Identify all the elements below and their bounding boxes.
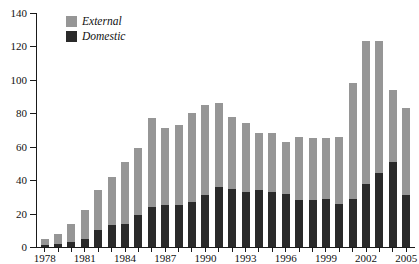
stacked-bar[interactable] xyxy=(54,234,62,247)
bar-column[interactable] xyxy=(306,13,319,247)
bar-column[interactable] xyxy=(373,13,386,247)
bar-segment-external[interactable] xyxy=(134,148,142,215)
bar-segment-domestic[interactable] xyxy=(335,204,343,247)
bar-segment-external[interactable] xyxy=(161,128,169,205)
bar-column[interactable]: 1993 xyxy=(239,13,252,247)
stacked-bar[interactable] xyxy=(268,133,276,247)
bar-column[interactable]: 2002 xyxy=(359,13,372,247)
stacked-bar[interactable] xyxy=(375,41,383,247)
stacked-bar[interactable] xyxy=(41,239,49,247)
bar-segment-domestic[interactable] xyxy=(268,192,276,247)
bar-segment-external[interactable] xyxy=(242,123,250,192)
bar-segment-domestic[interactable] xyxy=(121,224,129,247)
bar-segment-domestic[interactable] xyxy=(322,199,330,247)
stacked-bar[interactable] xyxy=(134,148,142,247)
bar-column[interactable]: 1981 xyxy=(78,13,91,247)
bar-column[interactable] xyxy=(252,13,265,247)
bar-segment-domestic[interactable] xyxy=(295,200,303,247)
bar-column[interactable]: 1987 xyxy=(159,13,172,247)
bar-column[interactable] xyxy=(225,13,238,247)
bar-segment-external[interactable] xyxy=(402,108,410,195)
bar-segment-domestic[interactable] xyxy=(389,162,397,247)
bar-segment-external[interactable] xyxy=(362,41,370,183)
bar-segment-external[interactable] xyxy=(41,239,49,246)
bar-segment-external[interactable] xyxy=(309,138,317,200)
bar-segment-domestic[interactable] xyxy=(215,187,223,247)
stacked-bar[interactable] xyxy=(335,137,343,247)
bar-column[interactable] xyxy=(65,13,78,247)
bar-column[interactable] xyxy=(105,13,118,247)
stacked-bar[interactable] xyxy=(309,138,317,247)
stacked-bar[interactable] xyxy=(228,117,236,247)
bar-segment-domestic[interactable] xyxy=(188,202,196,247)
bar-column[interactable] xyxy=(386,13,399,247)
bar-segment-domestic[interactable] xyxy=(161,205,169,247)
stacked-bar[interactable] xyxy=(67,224,75,247)
bar-segment-domestic[interactable] xyxy=(402,195,410,247)
stacked-bar[interactable] xyxy=(322,138,330,247)
bar-segment-domestic[interactable] xyxy=(309,200,317,247)
stacked-bar[interactable] xyxy=(94,190,102,247)
bar-segment-external[interactable] xyxy=(268,133,276,192)
bar-segment-external[interactable] xyxy=(148,118,156,207)
bar-segment-external[interactable] xyxy=(54,234,62,244)
bar-segment-external[interactable] xyxy=(349,83,357,198)
bar-column[interactable] xyxy=(185,13,198,247)
bar-segment-external[interactable] xyxy=(375,41,383,173)
bar-segment-external[interactable] xyxy=(322,138,330,198)
stacked-bar[interactable] xyxy=(389,90,397,247)
stacked-bar[interactable] xyxy=(148,118,156,247)
bar-column[interactable]: 2005 xyxy=(400,13,413,247)
bar-segment-domestic[interactable] xyxy=(362,184,370,248)
stacked-bar[interactable] xyxy=(242,123,250,247)
bar-column[interactable] xyxy=(333,13,346,247)
stacked-bar[interactable] xyxy=(282,142,290,247)
stacked-bar[interactable] xyxy=(161,128,169,247)
stacked-bar[interactable] xyxy=(255,133,263,247)
bar-segment-external[interactable] xyxy=(335,137,343,204)
bar-segment-domestic[interactable] xyxy=(282,194,290,247)
bar-column[interactable] xyxy=(266,13,279,247)
stacked-bar[interactable] xyxy=(108,177,116,247)
bar-column[interactable]: 1999 xyxy=(319,13,332,247)
bar-column[interactable] xyxy=(132,13,145,247)
stacked-bar[interactable] xyxy=(349,83,357,247)
stacked-bar[interactable] xyxy=(188,113,196,247)
bar-segment-external[interactable] xyxy=(175,125,183,205)
stacked-bar[interactable] xyxy=(81,210,89,247)
bar-segment-external[interactable] xyxy=(255,133,263,190)
bar-segment-external[interactable] xyxy=(228,117,236,189)
legend-item[interactable]: Domestic xyxy=(66,31,125,43)
bar-segment-external[interactable] xyxy=(295,137,303,201)
bar-column[interactable] xyxy=(346,13,359,247)
bar-segment-external[interactable] xyxy=(108,177,116,225)
bar-segment-domestic[interactable] xyxy=(134,215,142,247)
stacked-bar[interactable] xyxy=(402,108,410,247)
bar-segment-domestic[interactable] xyxy=(201,195,209,247)
bar-segment-external[interactable] xyxy=(201,105,209,195)
bar-column[interactable] xyxy=(212,13,225,247)
bar-segment-external[interactable] xyxy=(215,103,223,187)
bar-segment-domestic[interactable] xyxy=(108,225,116,247)
stacked-bar[interactable] xyxy=(215,103,223,247)
bar-column[interactable]: 1984 xyxy=(118,13,131,247)
stacked-bar[interactable] xyxy=(201,105,209,247)
bar-column[interactable] xyxy=(145,13,158,247)
bar-segment-external[interactable] xyxy=(94,190,102,230)
bar-segment-external[interactable] xyxy=(121,162,129,224)
bar-segment-domestic[interactable] xyxy=(81,239,89,247)
bar-segment-external[interactable] xyxy=(67,224,75,242)
bar-segment-domestic[interactable] xyxy=(148,207,156,247)
stacked-bar[interactable] xyxy=(362,41,370,247)
bar-column[interactable] xyxy=(172,13,185,247)
bar-segment-domestic[interactable] xyxy=(242,192,250,247)
bar-column[interactable] xyxy=(292,13,305,247)
bar-column[interactable]: 1996 xyxy=(279,13,292,247)
legend-item[interactable]: External xyxy=(66,16,125,28)
bar-segment-external[interactable] xyxy=(188,113,196,202)
bar-column[interactable] xyxy=(92,13,105,247)
bar-segment-domestic[interactable] xyxy=(349,199,357,247)
bar-segment-domestic[interactable] xyxy=(94,230,102,247)
bar-segment-domestic[interactable] xyxy=(255,190,263,247)
stacked-bar[interactable] xyxy=(121,162,129,247)
